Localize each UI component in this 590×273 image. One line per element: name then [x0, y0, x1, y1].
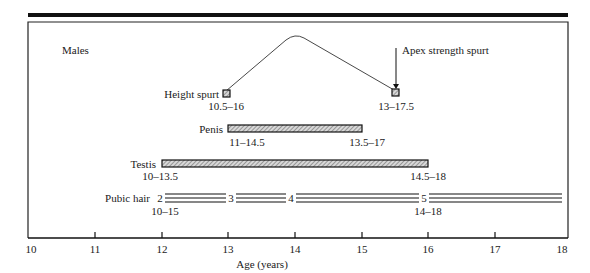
apex-strength-label: Apex strength spurt [402, 44, 489, 56]
tick-label: 17 [490, 243, 502, 255]
testis-bar [162, 160, 428, 167]
penis-bar [228, 125, 362, 132]
apex-strength-marker [392, 89, 399, 96]
pubic-hair-lines [165, 194, 562, 202]
tick-label: 13 [223, 243, 235, 255]
tick-label: 16 [423, 243, 435, 255]
arrow-down-icon [393, 84, 399, 89]
testis-onset-range: 10–13.5 [142, 170, 178, 182]
stage-3-label: 3 [228, 192, 234, 204]
pubic-hair-completion-range: 14–18 [414, 205, 442, 217]
tick-label: 12 [157, 243, 168, 255]
tick-label: 11 [90, 243, 101, 255]
testis-completion-range: 14.5–18 [410, 170, 446, 182]
puberty-timeline-diagram: 10 11 12 13 14 15 16 17 18 Age (years) M… [0, 0, 590, 273]
height-spurt-range: 10.5–16 [208, 100, 244, 112]
penis-completion-range: 13.5–17 [349, 136, 385, 148]
tick-label: 15 [357, 243, 369, 255]
tick-label: 10 [26, 243, 38, 255]
x-ticks [95, 232, 495, 238]
height-velocity-curve [226, 36, 394, 91]
x-tick-labels: 10 11 12 13 14 15 16 17 18 [26, 243, 569, 255]
stage-5-label: 5 [421, 192, 427, 204]
pubic-hair-label: Pubic hair [105, 192, 150, 204]
penis-onset-range: 11–14.5 [229, 136, 265, 148]
pubic-hair-onset-range: 10–15 [151, 205, 179, 217]
testis-label: Testis [130, 158, 156, 170]
height-spurt-marker [223, 90, 230, 97]
tick-label: 14 [290, 243, 302, 255]
stage-2-label: 2 [157, 192, 163, 204]
group-label: Males [62, 44, 89, 56]
tick-label: 18 [557, 243, 569, 255]
x-axis-label: Age (years) [236, 258, 288, 271]
height-spurt-label: Height spurt [164, 88, 219, 100]
stage-4-label: 4 [288, 192, 294, 204]
penis-label: Penis [199, 123, 223, 135]
apex-strength-range: 13–17.5 [378, 100, 414, 112]
top-rule [28, 13, 568, 17]
